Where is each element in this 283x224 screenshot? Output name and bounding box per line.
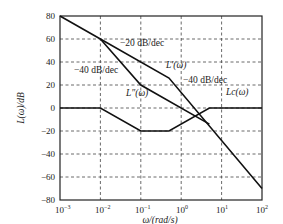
x-tick: 101: [216, 204, 228, 215]
y-tick: 0: [51, 103, 56, 113]
annotation-L-prime: L′(ω): [165, 60, 186, 71]
y-tick: −40: [41, 149, 56, 159]
x-tick: 10−2: [95, 204, 110, 215]
x-tick-labels: 10−3 10−2 10−1 100 101 102: [55, 204, 268, 215]
annotation-Lc: Lc(ω): [225, 87, 249, 98]
bode-plot: 80 60 40 20 0 −20 −40 −60 −80 10−3 10−2 …: [0, 0, 283, 224]
curve-Lc: [60, 108, 262, 131]
x-tick: 102: [256, 204, 268, 215]
y-tick: −60: [41, 172, 56, 182]
y-tick: 40: [46, 57, 56, 67]
annotation-L-double-prime: L″(ω): [125, 88, 148, 99]
y-tick: −20: [41, 126, 56, 136]
y-tick: 60: [46, 34, 56, 44]
y-tick: 20: [46, 80, 56, 90]
x-axis-label: ω/(rad/s): [142, 215, 177, 224]
annotation-minus40-right: −40 dB/dec: [183, 75, 227, 85]
y-axis-label: L(ω)/dB: [16, 92, 27, 125]
y-tick: 80: [46, 11, 56, 21]
x-tick: 100: [176, 204, 188, 215]
y-tick: −80: [41, 195, 56, 205]
x-tick: 10−1: [135, 204, 150, 215]
annotation-minus20: −20 dB/dec: [120, 38, 164, 48]
y-tick-labels: 80 60 40 20 0 −20 −40 −60 −80: [41, 11, 56, 205]
x-tick: 10−3: [55, 204, 70, 215]
annotation-minus40-left: −40 dB/dec: [74, 65, 118, 75]
